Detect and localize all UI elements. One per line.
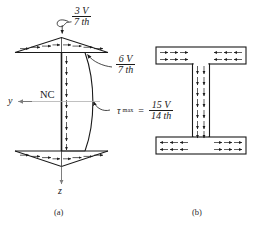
tau-symbol: τ: [117, 106, 121, 116]
top-flange-b: [156, 47, 246, 64]
caption-panel-a: (a): [54, 207, 63, 217]
bottom-flange-distribution: [15, 151, 108, 167]
flange-top-denominator: 7 th: [72, 16, 91, 27]
leader-flange-junction: [88, 55, 113, 68]
leader-loop-top: [57, 20, 71, 34]
flange-junction-denominator: 7 th: [116, 64, 135, 75]
label-tau-max: τmax = 15 V 14 th: [117, 100, 173, 121]
tau-max-numerator: 15 V: [149, 100, 173, 110]
caption-panel-b: (b): [192, 207, 202, 217]
panel-a-drawing: [15, 20, 112, 184]
y-axis-label: y: [8, 96, 12, 106]
bottom-flange-b: [156, 137, 246, 154]
tau-equals: =: [138, 106, 144, 116]
tau-subscript: max: [123, 107, 134, 113]
label-flange-junction-stress: 6 V 7 th: [116, 54, 135, 75]
web-b: [193, 64, 210, 137]
neutral-axis-label: NC: [40, 90, 55, 101]
flange-top-numerator: 3 V: [72, 6, 91, 16]
flange-junction-numerator: 6 V: [116, 54, 135, 64]
z-axis-label: z: [58, 186, 62, 196]
leader-tau-max: [94, 102, 111, 111]
tau-max-denominator: 14 th: [149, 110, 173, 121]
label-flange-top-stress: 3 V 7 th: [72, 6, 91, 27]
top-flange-distribution: [15, 38, 108, 53]
